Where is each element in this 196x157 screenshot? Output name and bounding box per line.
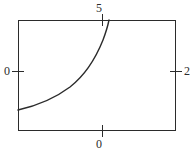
right-axis-label: 2 <box>184 65 190 77</box>
bottom-axis-label: 0 <box>96 138 102 150</box>
top-axis-label: 5 <box>96 2 102 14</box>
plot-figure: 5 0 0 2 <box>0 0 196 157</box>
plot-canvas <box>0 0 196 157</box>
exponential-curve <box>18 20 109 110</box>
plot-frame <box>19 21 176 131</box>
left-axis-label: 0 <box>4 65 10 77</box>
